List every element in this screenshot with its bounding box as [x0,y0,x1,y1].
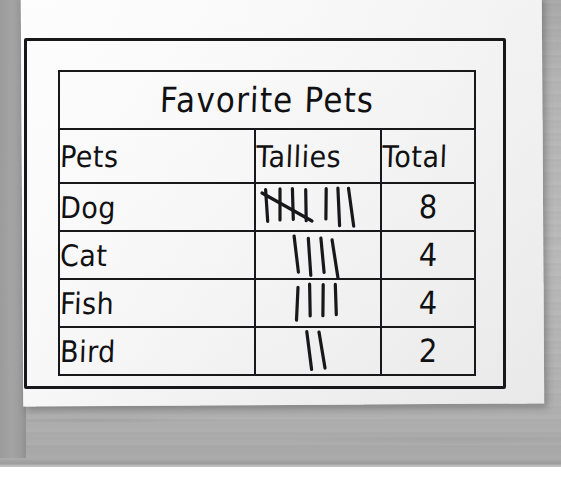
pet-name: Bird [59,334,116,368]
table-header-row: Pets Tallies Total [59,129,475,183]
column-header-total: Total [381,129,475,183]
pet-name: Dog [59,190,116,224]
page-title: Favorite Pets [159,80,375,120]
total-value: 4 [418,236,438,273]
table-row: Cat 4 [59,231,475,279]
tally-marks [256,328,380,374]
tally-cell [255,279,381,327]
row-label-cell: Bird [59,327,255,375]
tally-marks [256,280,380,326]
total-value: 4 [418,284,438,321]
pet-name: Cat [59,238,108,272]
total-cell: 4 [381,231,475,279]
total-cell: 8 [381,183,475,231]
pet-name: Fish [59,286,114,320]
column-header-pets: Pets [59,129,255,183]
total-cell: 2 [381,327,475,375]
tally-cell [255,231,381,279]
table-title-row: Favorite Pets [59,71,475,129]
total-value: 2 [418,332,438,369]
chart-title-cell: Favorite Pets [59,71,475,129]
total-cell: 4 [381,279,475,327]
column-header-tallies: Tallies [255,129,381,183]
row-label-cell: Fish [59,279,255,327]
column-header-pets-label: Pets [59,139,119,173]
table-row: Dog 8 [59,183,475,231]
tally-cell [255,327,381,375]
tally-marks [256,232,380,278]
tally-chart: Favorite Pets Pets Tallies Total [58,70,474,358]
table-row: Fish 4 [59,279,475,327]
wood-bottom-edge [0,458,561,467]
photo-scene: Favorite Pets Pets Tallies Total [0,0,561,477]
column-header-total-label: Total [381,139,448,173]
column-header-tallies-label: Tallies [255,139,341,173]
tally-marks [256,184,380,230]
row-label-cell: Cat [59,231,255,279]
table-row: Bird 2 [59,327,475,375]
total-value: 8 [418,188,438,225]
row-label-cell: Dog [59,183,255,231]
tally-table: Favorite Pets Pets Tallies Total [58,70,476,376]
tally-cell [255,183,381,231]
